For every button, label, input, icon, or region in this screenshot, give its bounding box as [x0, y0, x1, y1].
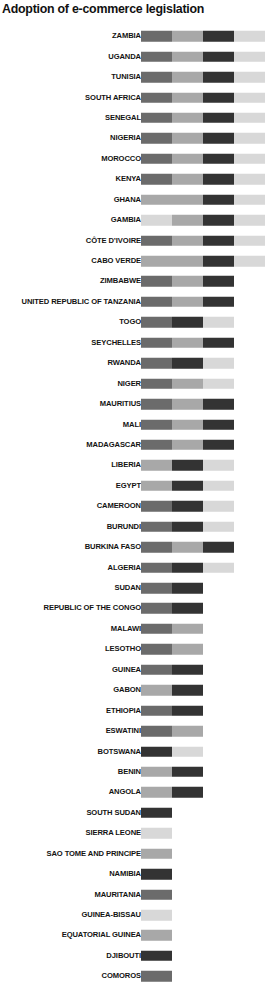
bar-segment — [203, 51, 234, 62]
bar-segment — [172, 501, 203, 512]
bar-segment — [203, 113, 234, 124]
bar-segment — [141, 378, 172, 389]
bar-segment — [203, 133, 234, 144]
bar-segment — [141, 971, 172, 982]
bar-segment — [141, 665, 172, 676]
chart-row: MALI — [0, 414, 226, 434]
stacked-bar — [141, 910, 172, 921]
row-label: NAMIBIA — [109, 870, 141, 878]
bar-segment — [203, 440, 234, 451]
stacked-bar — [141, 133, 265, 144]
bar-segment — [141, 685, 172, 696]
page-title: Adoption of e-commerce legislation — [2, 1, 226, 17]
bar-segment — [172, 194, 203, 205]
bar-segment — [203, 31, 234, 42]
row-label: SOUTH SUDAN — [86, 809, 141, 817]
row-label: CABO VERDE — [91, 257, 141, 265]
bar-segment — [172, 297, 203, 308]
chart-row: TUNISIA — [0, 67, 226, 87]
bar-segment — [172, 399, 203, 410]
bar-segment — [141, 133, 172, 144]
stacked-bar — [141, 256, 265, 267]
row-label: EQUATORIAL GUINEA — [62, 931, 141, 939]
bar-segment — [203, 256, 234, 267]
bar-segment — [203, 215, 234, 226]
bar-segment — [141, 194, 172, 205]
chart-row: GUINEA-BISSAU — [0, 905, 226, 925]
bar-segment — [141, 767, 172, 778]
bar-segment — [141, 481, 172, 492]
row-label: TUNISIA — [111, 73, 141, 81]
stacked-bar — [141, 113, 265, 124]
stacked-bar — [141, 705, 203, 716]
stacked-bar — [141, 971, 172, 982]
stacked-bar — [141, 562, 234, 573]
bar-segment — [141, 705, 172, 716]
bar-segment — [141, 542, 172, 553]
bar-segment — [234, 174, 265, 185]
row-label: SEYCHELLES — [91, 339, 141, 347]
stacked-bar — [141, 317, 234, 328]
bar-segment — [141, 746, 172, 757]
chart-row: BURKINA FASO — [0, 537, 226, 557]
chart-row: LIBERIA — [0, 455, 226, 475]
chart-row: BOTSWANA — [0, 741, 226, 761]
stacked-bar — [141, 665, 203, 676]
bar-segment — [172, 51, 203, 62]
chart-row: SEYCHELLES — [0, 333, 226, 353]
bar-segment — [172, 440, 203, 451]
chart-row: CABO VERDE — [0, 251, 226, 271]
bar-segment — [234, 51, 265, 62]
chart-row: SENEGAL — [0, 108, 226, 128]
stacked-bar — [141, 174, 265, 185]
row-label: SIERRA LEONE — [86, 829, 141, 837]
chart-row: TOGO — [0, 312, 226, 332]
stacked-bar — [141, 644, 203, 655]
bar-segment — [172, 72, 203, 83]
stacked-bar — [141, 235, 265, 246]
chart-row: UGANDA — [0, 46, 226, 66]
bar-segment — [141, 501, 172, 512]
bar-segment — [172, 92, 203, 103]
bar-segment — [172, 256, 203, 267]
stacked-bar — [141, 481, 234, 492]
bar-segment — [141, 215, 172, 226]
row-label: BURUNDI — [107, 523, 141, 531]
stacked-bar — [141, 726, 203, 737]
bar-segment — [141, 460, 172, 471]
row-label: MALAWI — [111, 625, 141, 633]
bar-segment — [141, 808, 172, 819]
row-label: MADAGASCAR — [86, 441, 141, 449]
chart-row: BURUNDI — [0, 517, 226, 537]
stacked-bar — [141, 440, 234, 451]
chart-row: ALGERIA — [0, 557, 226, 577]
bar-segment — [141, 889, 172, 900]
stacked-bar — [141, 521, 234, 532]
row-label: DJIBOUTI — [106, 952, 141, 960]
stacked-bar — [141, 848, 172, 859]
stacked-bar — [141, 685, 203, 696]
bar-segment — [141, 910, 172, 921]
bar-segment — [141, 256, 172, 267]
row-label: GHANA — [114, 196, 141, 204]
stacked-bar — [141, 419, 234, 430]
bar-segment — [172, 787, 203, 798]
stacked-bar — [141, 787, 203, 798]
bar-segment — [172, 665, 203, 676]
row-label: GUINEA — [112, 666, 141, 674]
chart-row: DJIBOUTI — [0, 946, 226, 966]
row-label: SENEGAL — [105, 114, 141, 122]
row-label: BENIN — [118, 768, 141, 776]
chart-row: EGYPT — [0, 476, 226, 496]
bar-segment — [203, 276, 234, 287]
bar-segment — [172, 31, 203, 42]
row-label: SOUTH AFRICA — [85, 94, 141, 102]
chart-row: GUINEA — [0, 660, 226, 680]
row-label: ETHIOPIA — [106, 707, 141, 715]
chart-row: NAMIBIA — [0, 864, 226, 884]
bar-segment — [172, 481, 203, 492]
bar-segment — [141, 399, 172, 410]
bar-segment — [141, 154, 172, 165]
bar-segment — [234, 256, 265, 267]
